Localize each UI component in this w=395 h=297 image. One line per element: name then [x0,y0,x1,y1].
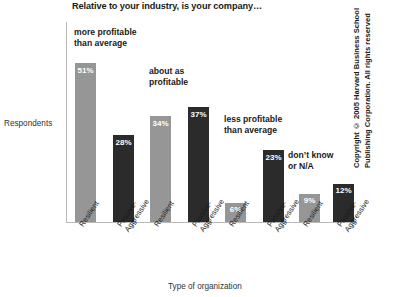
copyright-notice: Copyright © 2005 Harvard Business School… [352,8,374,168]
group-annotation-about-as-profitable: about as profitable [149,66,188,88]
annotation-line-2: than average [74,38,137,49]
bar-value-label: 23% [263,153,284,162]
copyright-line-2: Publishing Corporation. All rights reser… [363,13,372,168]
annotation-line-1: about as [149,66,188,77]
bar-value-label: 28% [113,138,134,147]
chart-title: Relative to your industry, is your compa… [72,1,262,11]
y-axis-line [66,22,67,222]
x-axis-title: Type of organization [168,282,242,291]
annotation-line-2: profitable [149,77,188,88]
annotation-line-2: than average [224,125,282,136]
bar-value-label: 51% [75,66,96,75]
bar-value-label: 37% [188,110,209,119]
y-axis-title: Respondents [4,119,52,128]
annotation-line-2: or N/A [288,161,333,172]
bar-value-label: 12% [333,186,354,195]
copyright-line-1: Copyright © 2005 Harvard Business School [352,8,361,168]
annotation-line-1: less profitable [224,114,282,125]
annotation-line-1: more profitable [74,27,137,38]
group-annotation-less-profitable: less profitable than average [224,114,282,136]
bar-value-label: 34% [150,119,171,128]
group-annotation-more-profitable: more profitable than average [74,27,137,49]
chart-container: Relative to your industry, is your compa… [0,0,395,297]
group-annotation-dont-know: don’t know or N/A [288,150,333,172]
annotation-line-1: don’t know [288,150,333,161]
